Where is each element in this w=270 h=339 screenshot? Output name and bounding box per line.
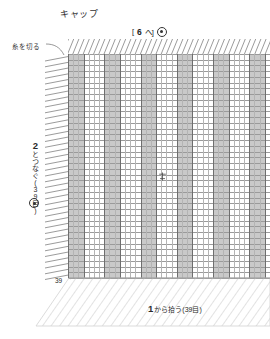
grid-col-line (172, 54, 173, 278)
grid-col-line (125, 54, 126, 278)
grid-col-line (115, 54, 116, 278)
grid-col-line (161, 54, 162, 278)
center-stitch-marker-icon (158, 172, 167, 181)
grid-col-line (156, 54, 157, 278)
grid-col-line (84, 54, 85, 278)
stitch-chart-grid (68, 54, 270, 278)
grid-col-line (265, 54, 266, 278)
grid-col-line (104, 54, 105, 278)
pickup-edge-caption: 1から拾う(39目) (148, 303, 202, 314)
grid-col-line (68, 54, 69, 278)
grid-col-line (197, 54, 198, 278)
grid-col-line (249, 54, 250, 278)
grid-col-line (73, 54, 74, 278)
grid-col-line (151, 54, 152, 278)
top-marker-bracket-open: [ (132, 27, 134, 36)
grid-col-line (182, 54, 183, 278)
grid-col-line (192, 54, 193, 278)
chart-cells (68, 54, 270, 278)
top-marker-suffix: へ] (145, 26, 154, 37)
top-join-marker: [6へ] (132, 26, 167, 37)
grid-col-line (78, 54, 79, 278)
grid-col-line (239, 54, 240, 278)
grid-col-line (166, 54, 167, 278)
left-caption-ring-dot-icon (29, 198, 39, 208)
left-caption-number: 2 (30, 140, 41, 151)
grid-col-line (89, 54, 90, 278)
page-title: キャップ (60, 7, 98, 20)
grid-col-line (229, 54, 230, 278)
ring-dot-icon (157, 27, 167, 37)
grid-col-line (260, 54, 261, 278)
grid-col-line (120, 54, 121, 278)
pickup-number: 1 (148, 303, 153, 314)
pickup-text: から拾う(39目) (154, 304, 201, 314)
grid-col-line (244, 54, 245, 278)
pickup-edge-skirt (0, 276, 270, 334)
top-marker-number: 6 (137, 27, 142, 37)
top-fringe-slashes (68, 38, 270, 55)
grid-col-line (234, 54, 235, 278)
grid-col-line (203, 54, 204, 278)
grid-col-line (130, 54, 131, 278)
grid-col-line (109, 54, 110, 278)
grid-col-line (208, 54, 209, 278)
grid-col-line (213, 54, 214, 278)
grid-col-line (177, 54, 178, 278)
grid-col-line (223, 54, 224, 278)
grid-col-line (187, 54, 188, 278)
grid-col-line (254, 54, 255, 278)
grid-col-line (146, 54, 147, 278)
grid-col-line (218, 54, 219, 278)
grid-col-line (99, 54, 100, 278)
grid-col-line (135, 54, 136, 278)
grid-col-line (141, 54, 142, 278)
grid-col-line (94, 54, 95, 278)
cut-yarn-label: 糸を切る (12, 41, 40, 51)
